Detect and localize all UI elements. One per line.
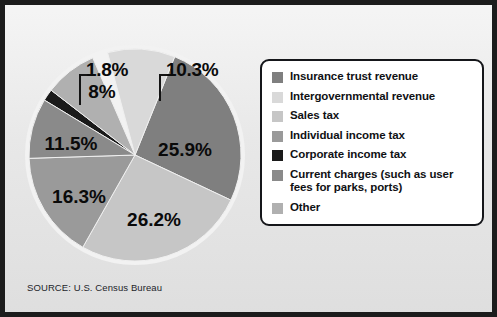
pie-slice-value-label: 16.3%	[52, 186, 106, 207]
legend-swatch-icon	[272, 72, 283, 83]
legend-item-label: Sales tax	[290, 109, 339, 123]
source-note: SOURCE: U.S. Census Bureau	[27, 282, 162, 293]
pie-slice-value-label: 26.2%	[127, 209, 181, 230]
legend-item-label: Other	[290, 201, 320, 215]
legend-item-label: Corporate income tax	[290, 148, 406, 162]
legend-swatch-icon	[272, 131, 283, 142]
legend-item: Insurance trust revenue	[272, 70, 474, 84]
legend-swatch-icon	[272, 92, 283, 103]
legend-item-label: Intergovernmental revenue	[290, 90, 435, 104]
leader-line-intergovernmental-vertical	[159, 74, 161, 101]
legend-item: Corporate income tax	[272, 148, 474, 162]
legend-swatch-icon	[272, 111, 283, 122]
legend-item: Other	[272, 201, 474, 215]
pie-slice-value-label: 25.9%	[158, 139, 212, 160]
legend-item-label: Current charges (such as user fees for p…	[290, 168, 474, 195]
legend-item: Sales tax	[272, 109, 474, 123]
legend-item: Intergovernmental revenue	[272, 90, 474, 104]
callout-label-intergovernmental-revenue: 10.3%	[166, 59, 218, 81]
leader-line-corporate-vertical	[79, 74, 81, 105]
pie-slice-value-label: 11.5%	[45, 133, 98, 154]
legend-swatch-icon	[272, 170, 283, 181]
legend: Insurance trust revenueIntergovernmental…	[260, 59, 484, 226]
pie-slice-value-label: 8%	[88, 81, 116, 102]
legend-swatch-icon	[272, 150, 283, 161]
callout-label-corporate-income-tax: 1.8%	[86, 59, 128, 81]
legend-item: Individual income tax	[272, 129, 474, 143]
legend-item-label: Individual income tax	[290, 129, 405, 143]
pie-chart-figure: 25.9%26.2%16.3%11.5%8% 1.8% 10.3% SOURCE…	[0, 0, 497, 317]
pie-chart: 25.9%26.2%16.3%11.5%8% 1.8% 10.3%	[23, 43, 247, 267]
legend-item-label: Insurance trust revenue	[290, 70, 418, 84]
legend-item: Current charges (such as user fees for p…	[272, 168, 474, 195]
legend-swatch-icon	[272, 203, 283, 214]
